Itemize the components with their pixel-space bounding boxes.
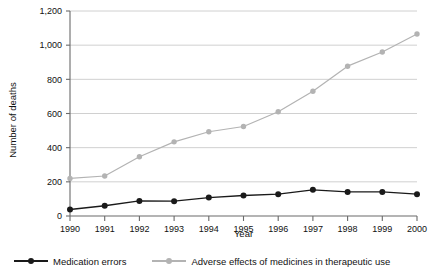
x-axis-ticks xyxy=(70,216,417,221)
data-point xyxy=(206,195,212,201)
y-tick-label: 1,000 xyxy=(39,40,62,50)
series-line-adverse-effects xyxy=(70,34,417,178)
data-point xyxy=(275,191,281,197)
legend-item-adverse-effects: Adverse effects of medicines in therapeu… xyxy=(152,256,390,267)
data-point xyxy=(206,129,211,134)
data-point xyxy=(102,203,108,209)
y-axis-tick-labels: 02004006008001,0001,200 xyxy=(39,6,62,221)
x-tick-label: 2000 xyxy=(407,224,427,234)
data-point xyxy=(241,193,247,199)
x-tick-label: 1990 xyxy=(60,224,80,234)
x-tick-label: 1999 xyxy=(372,224,392,234)
data-point xyxy=(276,109,281,114)
chart-legend: Medication errors Adverse effects of med… xyxy=(0,252,434,270)
data-series-lines xyxy=(70,34,417,209)
legend-swatch-dark-icon xyxy=(14,256,48,266)
legend-label-adverse-effects: Adverse effects of medicines in therapeu… xyxy=(191,256,390,267)
data-point xyxy=(345,63,350,68)
legend-swatch-light-icon xyxy=(152,256,186,266)
x-axis-title: Year xyxy=(234,228,253,239)
data-point xyxy=(67,207,73,213)
legend-marker-dark xyxy=(28,258,34,264)
x-tick-label: 1991 xyxy=(95,224,115,234)
data-point xyxy=(136,198,142,204)
data-point xyxy=(414,191,420,197)
data-point xyxy=(345,189,351,195)
data-point xyxy=(310,187,316,193)
grid-lines xyxy=(70,11,417,182)
y-tick-label: 600 xyxy=(47,109,62,119)
x-tick-label: 1998 xyxy=(338,224,358,234)
x-tick-label: 1996 xyxy=(268,224,288,234)
data-point xyxy=(310,89,315,94)
y-tick-label: 0 xyxy=(57,211,62,221)
y-tick-label: 1,200 xyxy=(39,6,62,16)
data-point xyxy=(171,139,176,144)
x-tick-label: 1997 xyxy=(303,224,323,234)
line-chart-svg: 02004006008001,0001,200 1990199119921993… xyxy=(0,0,434,240)
y-axis-title: Number of deaths xyxy=(7,82,18,158)
chart-figure: 02004006008001,0001,200 1990199119921993… xyxy=(0,0,434,270)
y-tick-label: 200 xyxy=(47,177,62,187)
data-point xyxy=(379,189,385,195)
data-point xyxy=(171,198,177,204)
x-tick-label: 1992 xyxy=(129,224,149,234)
x-tick-label: 1994 xyxy=(199,224,219,234)
data-point xyxy=(137,154,142,159)
data-point xyxy=(414,31,419,36)
y-axis-ticks xyxy=(66,11,70,216)
y-tick-label: 400 xyxy=(47,143,62,153)
data-point xyxy=(380,49,385,54)
legend-label-medication-errors: Medication errors xyxy=(53,256,126,267)
chart-plot-area: 02004006008001,0001,200 1990199119921993… xyxy=(0,0,434,240)
legend-item-medication-errors: Medication errors xyxy=(14,256,126,267)
data-point xyxy=(67,176,72,181)
data-point xyxy=(241,124,246,129)
y-tick-label: 800 xyxy=(47,75,62,85)
legend-marker-light xyxy=(166,258,172,264)
x-tick-label: 1993 xyxy=(164,224,184,234)
data-point xyxy=(102,173,107,178)
